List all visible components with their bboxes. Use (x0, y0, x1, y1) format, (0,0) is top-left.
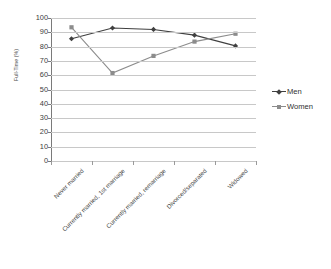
y-tick-label: 100 (22, 14, 48, 22)
y-tick-mark (48, 47, 51, 48)
y-axis-title: Full-Time (%) (13, 30, 19, 100)
data-point (192, 39, 196, 43)
y-tick-label: 80 (22, 43, 48, 51)
y-tick-label: 90 (22, 28, 48, 36)
series-men (69, 25, 238, 48)
gridline (51, 18, 256, 19)
gridline (51, 90, 256, 91)
x-tick-mark (51, 161, 52, 165)
y-tick-mark (48, 147, 51, 148)
y-tick-label: 30 (22, 114, 48, 122)
y-tick-label: 40 (22, 100, 48, 108)
data-point (69, 25, 73, 29)
gridline (51, 161, 256, 162)
y-tick-mark (48, 90, 51, 91)
x-tick-mark (133, 161, 134, 165)
y-tick-label: 60 (22, 71, 48, 79)
gridline (51, 118, 256, 119)
data-point (69, 36, 74, 41)
y-tick-mark (48, 132, 51, 133)
line-chart: Full-Time (%) 1009080706050403020100 Nev… (0, 0, 331, 269)
gridline (51, 32, 256, 33)
y-tick-label: 20 (22, 128, 48, 136)
legend-marker-icon (272, 102, 286, 111)
data-point (151, 54, 155, 58)
plot-area (51, 18, 256, 161)
y-tick-label: 50 (22, 86, 48, 94)
legend-label: Women (287, 102, 313, 111)
y-axis-tick-labels: 1009080706050403020100 (22, 13, 48, 162)
legend-marker-icon (272, 87, 286, 96)
chart-legend: MenWomen (272, 86, 331, 116)
data-point (151, 27, 156, 32)
gridline (51, 132, 256, 133)
data-point (110, 25, 115, 30)
legend-item-women[interactable]: Women (272, 101, 331, 112)
x-tick-mark (92, 161, 93, 165)
series-line (72, 27, 236, 73)
gridline (51, 104, 256, 105)
gridline (51, 75, 256, 76)
y-tick-label: 0 (22, 157, 48, 165)
y-tick-mark (48, 18, 51, 19)
gridline (51, 61, 256, 62)
y-tick-mark (48, 118, 51, 119)
y-tick-mark (48, 75, 51, 76)
gridline (51, 47, 256, 48)
x-tick-mark (256, 161, 257, 165)
y-tick-mark (48, 104, 51, 105)
y-tick-label: 10 (22, 143, 48, 151)
y-tick-mark (48, 32, 51, 33)
legend-item-men[interactable]: Men (272, 86, 331, 97)
gridline (51, 147, 256, 148)
data-point (192, 33, 197, 38)
x-tick-mark (215, 161, 216, 165)
x-tick-mark (174, 161, 175, 165)
y-tick-label: 70 (22, 57, 48, 65)
legend-label: Men (287, 87, 302, 96)
y-tick-mark (48, 61, 51, 62)
